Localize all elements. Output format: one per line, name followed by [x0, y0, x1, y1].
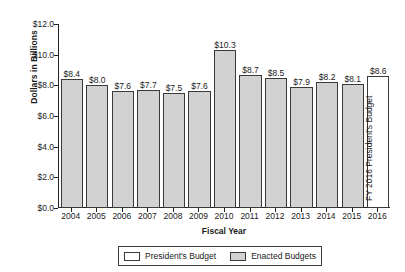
x-axis-tick-label: 2009 [189, 212, 208, 221]
legend-label: Enacted Budgets [251, 252, 316, 261]
x-axis-tick-label: 2016 [368, 212, 387, 221]
y-axis-tick-labels: $0.0$2.0$4.0$6.0$8.0$10.0$12.0 [12, 0, 54, 272]
bar-chart: Dollars in Billions $0.0$2.0$4.0$6.0$8.0… [0, 0, 405, 272]
x-axis-tick-label: 2006 [112, 212, 131, 221]
y-axis-tick-label: $6.0 [16, 112, 54, 121]
legend-item-president: President's Budget [124, 252, 216, 261]
x-axis-title: Fiscal Year [58, 226, 390, 236]
x-axis-tick-label: 2005 [87, 212, 106, 221]
x-axis-tick-label: 2008 [163, 212, 182, 221]
x-axis-tick-label: 2007 [138, 212, 157, 221]
x-axis-tick-label: 2012 [266, 212, 285, 221]
legend-item-enacted: Enacted Budgets [230, 252, 316, 261]
x-axis-tick-label: 2010 [215, 212, 234, 221]
x-axis-tick-label: 2011 [240, 212, 258, 221]
y-axis-tick-label: $2.0 [16, 173, 54, 182]
y-axis-tick-label: $8.0 [16, 81, 54, 90]
legend-swatch-icon [124, 252, 140, 261]
y-axis-tick-label: $4.0 [16, 143, 54, 152]
x-axis-tick-label: 2013 [291, 212, 310, 221]
legend-label: President's Budget [145, 252, 216, 261]
x-axis-tick-label: 2015 [342, 212, 361, 221]
y-axis-tick-label: $12.0 [16, 20, 54, 29]
x-axis-tick-label: 2014 [317, 212, 336, 221]
x-axis-tick-label: 2004 [61, 212, 80, 221]
chart-legend: President's BudgetEnacted Budgets [118, 246, 322, 266]
y-axis-tick-label: $0.0 [16, 204, 54, 213]
y-axis-tick-label: $10.0 [16, 51, 54, 60]
legend-swatch-icon [230, 252, 246, 261]
